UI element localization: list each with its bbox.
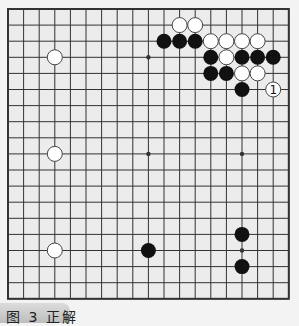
white-stone <box>203 34 218 49</box>
figure-caption-tab: 图 3 正解 <box>0 303 70 323</box>
white-stone <box>250 66 265 81</box>
black-stone <box>157 34 172 49</box>
star-point <box>146 55 150 59</box>
star-point <box>240 248 244 252</box>
black-stone <box>235 82 250 97</box>
black-stone <box>235 227 250 242</box>
white-stone <box>172 18 187 33</box>
black-stone <box>188 34 203 49</box>
black-stone <box>141 243 156 258</box>
white-stone <box>47 146 62 161</box>
black-stone <box>203 50 218 65</box>
black-stone <box>235 50 250 65</box>
white-stone <box>235 34 250 49</box>
black-stone <box>235 259 250 274</box>
white-stone <box>250 34 265 49</box>
go-board: 1 <box>0 0 299 305</box>
move-number: 1 <box>269 83 277 97</box>
white-stone <box>219 50 234 65</box>
white-stone <box>47 243 62 258</box>
star-point <box>240 152 244 156</box>
black-stone <box>250 50 265 65</box>
figure-caption: 图 3 正解 <box>6 306 78 326</box>
white-stone <box>47 50 62 65</box>
white-stone <box>219 34 234 49</box>
white-stone <box>188 18 203 33</box>
star-point <box>146 152 150 156</box>
white-stone <box>235 66 250 81</box>
black-stone <box>266 50 281 65</box>
black-stone <box>219 66 234 81</box>
black-stone <box>172 34 187 49</box>
black-stone <box>203 66 218 81</box>
